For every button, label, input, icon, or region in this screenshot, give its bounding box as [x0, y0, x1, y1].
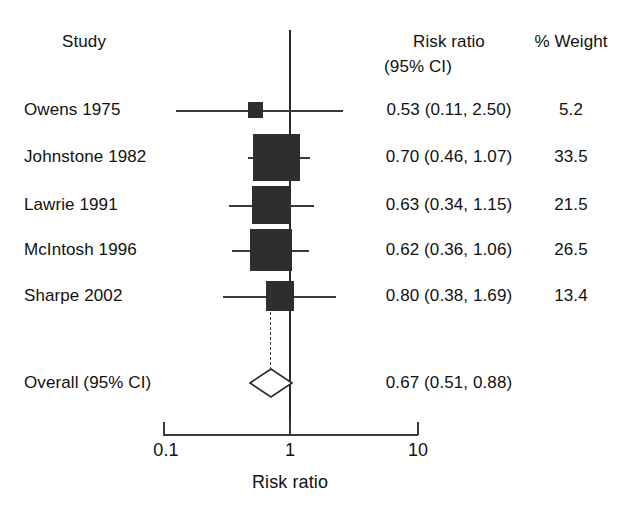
column-header-weight: % Weight: [534, 32, 607, 52]
weight-sharpe-2002: 13.4: [554, 286, 588, 306]
column-header-study: Study: [62, 32, 106, 52]
effect-box-owens-1975: [248, 102, 263, 118]
study-label-johnstone-1982: Johnstone 1982: [24, 147, 146, 167]
weight-johnstone-1982: 33.5: [554, 147, 588, 167]
study-label-mcintosh-1996: McIntosh 1996: [24, 240, 137, 260]
estimate-owens-1975: 0.53 (0.11, 2.50): [386, 100, 511, 120]
study-label-owens-1975: Owens 1975: [24, 100, 120, 120]
overall-label: Overall (95% CI): [24, 373, 151, 393]
x-axis-tick-label-10: 10: [408, 440, 428, 461]
weight-owens-1975: 5.2: [559, 100, 583, 120]
column-header-risk-ratio: Risk ratio: [413, 32, 485, 52]
x-axis-tick-0.1: [163, 422, 165, 435]
x-axis-tick-label-0.1: 0.1: [153, 440, 178, 461]
x-axis-tick-1: [289, 422, 291, 435]
x-axis-title: Risk ratio: [252, 472, 328, 493]
estimate-mcintosh-1996: 0.62 (0.36, 1.06): [386, 240, 512, 260]
overall-estimate: 0.67 (0.51, 0.88): [386, 373, 512, 393]
forest-plot: Study Risk ratio (95% CI) % Weight Owens…: [0, 0, 637, 511]
x-axis-tick-label-1: 1: [285, 440, 295, 461]
study-label-sharpe-2002: Sharpe 2002: [24, 286, 122, 306]
weight-mcintosh-1996: 26.5: [554, 240, 588, 260]
column-header-ci: (95% CI): [384, 57, 452, 77]
effect-box-mcintosh-1996: [250, 229, 292, 271]
x-axis-tick-10: [417, 422, 419, 435]
estimate-johnstone-1982: 0.70 (0.46, 1.07): [386, 147, 512, 167]
estimate-sharpe-2002: 0.80 (0.38, 1.69): [386, 286, 512, 306]
effect-box-johnstone-1982: [253, 134, 300, 181]
pooled-estimate-dashed-line: [270, 282, 271, 370]
study-label-lawrie-1991: Lawrie 1991: [24, 195, 118, 215]
estimate-lawrie-1991: 0.63 (0.34, 1.15): [386, 195, 512, 215]
overall-diamond-marker: [248, 366, 294, 400]
effect-box-lawrie-1991: [252, 186, 290, 224]
weight-lawrie-1991: 21.5: [554, 195, 588, 215]
